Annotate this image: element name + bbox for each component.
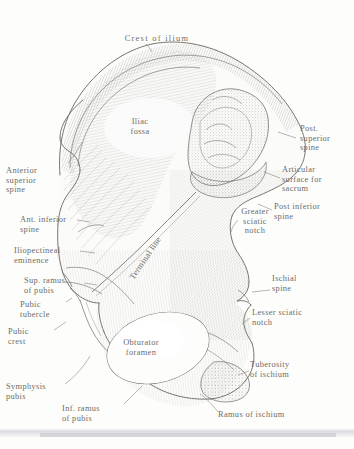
label-pubic-crest: Pubic crest (8, 327, 56, 346)
label-obturator-foramen: Obturator foramen (104, 338, 178, 357)
label-iliopectineal-eminence: Iliopectineal eminence (14, 246, 106, 265)
label-ischial-spine: Ischial spine (272, 274, 328, 293)
label-crest-of-ilium: Crest of ilium (102, 34, 212, 44)
anatomical-plate: Crest of ilium Iliac fossa Anterior supe… (0, 0, 354, 449)
label-ramus-of-ischium: Ramus of ischium (218, 410, 334, 420)
articular-surface-for-sacrum (188, 89, 269, 198)
label-sup-ramus-of-pubis: Sup. ramus of pubis (24, 276, 104, 295)
label-articular-surface-for-sacrum: Articular surface for sacrum (282, 165, 352, 194)
label-inf-ramus-of-pubis: Inf. ramus of pubis (62, 404, 134, 423)
label-iliac-fossa: Iliac fossa (106, 117, 174, 136)
label-symphysis-pubis: Symphysis pubis (6, 382, 72, 401)
label-anterior-superior-spine: Anterior superior spine (6, 166, 86, 195)
label-lesser-sciatic-notch: Lesser sciatic notch (252, 308, 336, 327)
label-post-inferior-spine: Post inferior spine (274, 202, 350, 221)
label-tuberosity-of-ischium: Tuberosity of ischium (250, 360, 330, 379)
label-pubic-tubercle: Pubic tubercle (20, 300, 80, 319)
label-post-superior-spine: Post. superior spine (300, 124, 354, 153)
label-ant-inferior-spine: Ant. inferior spine (20, 215, 106, 234)
